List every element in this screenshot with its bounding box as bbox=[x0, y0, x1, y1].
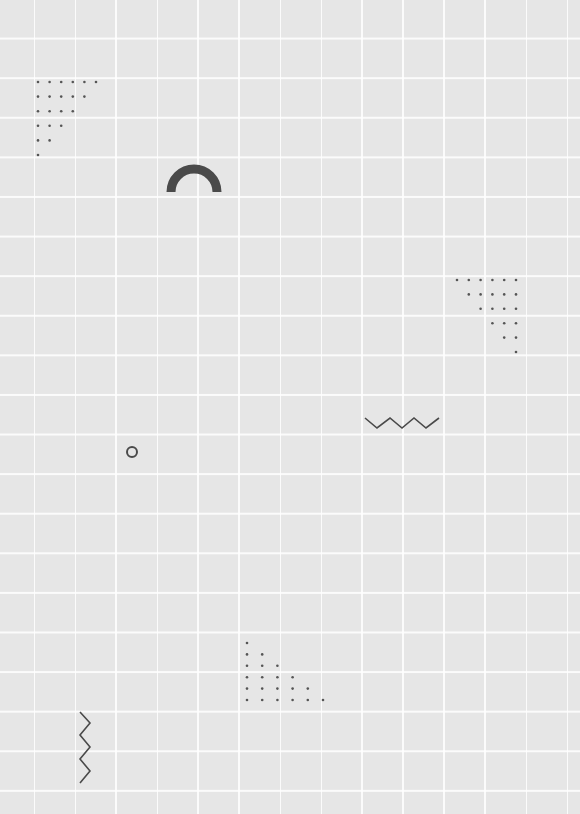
dot bbox=[48, 110, 51, 113]
dot bbox=[83, 81, 86, 84]
dot bbox=[479, 308, 482, 311]
dot bbox=[95, 81, 98, 84]
dot bbox=[246, 642, 249, 645]
dot bbox=[60, 95, 63, 98]
ring-icon bbox=[127, 447, 137, 457]
dot bbox=[468, 279, 471, 282]
dot bbox=[48, 95, 51, 98]
dot bbox=[72, 95, 75, 98]
dot bbox=[246, 676, 249, 679]
dot bbox=[48, 81, 51, 84]
dot bbox=[479, 293, 482, 296]
dot bbox=[83, 95, 86, 98]
dot-triangle-icon bbox=[246, 642, 325, 702]
dot bbox=[246, 665, 249, 668]
dot bbox=[456, 279, 459, 282]
dot bbox=[503, 293, 506, 296]
dot bbox=[291, 687, 294, 690]
dot bbox=[515, 308, 518, 311]
dot bbox=[479, 279, 482, 282]
dot bbox=[37, 154, 40, 157]
dot bbox=[37, 81, 40, 84]
dot bbox=[276, 687, 279, 690]
dot bbox=[261, 676, 264, 679]
decorative-canvas bbox=[0, 0, 580, 814]
half-ring-icon bbox=[171, 169, 217, 192]
dot bbox=[468, 293, 471, 296]
dot bbox=[322, 699, 325, 702]
dot bbox=[276, 665, 279, 668]
dot bbox=[246, 699, 249, 702]
dot bbox=[261, 665, 264, 668]
dot-triangle-icon bbox=[37, 81, 98, 157]
dot-triangle-icon bbox=[456, 279, 518, 354]
dot bbox=[261, 687, 264, 690]
dot bbox=[60, 125, 63, 128]
dot bbox=[491, 279, 494, 282]
dot bbox=[515, 336, 518, 339]
dot bbox=[515, 322, 518, 325]
dot bbox=[37, 139, 40, 142]
dot bbox=[60, 81, 63, 84]
dot bbox=[261, 699, 264, 702]
dot bbox=[291, 676, 294, 679]
dot bbox=[246, 653, 249, 656]
dot bbox=[515, 351, 518, 354]
dot bbox=[72, 110, 75, 113]
dot bbox=[48, 125, 51, 128]
zigzag-icon bbox=[80, 712, 90, 783]
dot bbox=[37, 125, 40, 128]
dot bbox=[503, 336, 506, 339]
dot bbox=[276, 699, 279, 702]
dot bbox=[515, 279, 518, 282]
dot bbox=[37, 110, 40, 113]
dot bbox=[503, 308, 506, 311]
decorative-shapes bbox=[0, 0, 580, 814]
dot bbox=[48, 139, 51, 142]
dot bbox=[491, 308, 494, 311]
dot bbox=[246, 687, 249, 690]
dot bbox=[60, 110, 63, 113]
dot bbox=[307, 699, 310, 702]
dot bbox=[491, 322, 494, 325]
dot bbox=[276, 676, 279, 679]
dot bbox=[503, 279, 506, 282]
dot bbox=[307, 687, 310, 690]
dot bbox=[37, 95, 40, 98]
dot bbox=[515, 293, 518, 296]
dot bbox=[261, 653, 264, 656]
dot bbox=[503, 322, 506, 325]
zigzag-icon bbox=[365, 418, 439, 428]
dot bbox=[72, 81, 75, 84]
dot bbox=[491, 293, 494, 296]
dot bbox=[291, 699, 294, 702]
